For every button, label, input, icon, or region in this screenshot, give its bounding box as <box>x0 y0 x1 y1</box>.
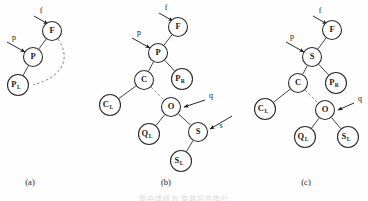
node-label: O <box>168 101 175 111</box>
node-label: S <box>310 51 315 61</box>
pointer-label-f: f <box>165 3 168 12</box>
panel-b: fpqsFPPRCCLOQLSSL(b) <box>100 3 233 187</box>
tree-node-b-S: S <box>189 123 208 142</box>
pointer-label-q: q <box>209 91 213 100</box>
tree-edge <box>187 141 193 152</box>
node-label: F <box>49 25 54 35</box>
tree-edge <box>149 62 154 71</box>
tree-edge <box>39 39 46 49</box>
node-label: S <box>196 126 201 136</box>
pointer-arrow-q <box>338 103 354 110</box>
panel-caption-c: (c) <box>301 177 311 187</box>
tree-edge <box>318 38 326 49</box>
tree-node-b-SL: SL <box>171 151 192 172</box>
node-label: F <box>329 24 334 34</box>
tree-node-b-C: C <box>135 71 154 90</box>
tree-diagram-svg: fpFPPL(a)fpqsFPPRCCLOQLSSL(b)fpqFSCPRCLO… <box>0 0 368 201</box>
tree-edge <box>319 64 329 75</box>
tree-node-a-P: P <box>24 48 43 67</box>
faint-footer-text: 图中虚线为 旋转后的指针 <box>0 195 368 201</box>
tree-node-c-O: O <box>316 101 335 120</box>
tree-node-b-F: F <box>169 18 188 37</box>
node-label: F <box>175 21 180 31</box>
tree-edge <box>178 114 190 125</box>
tree-node-c-QL: QL <box>295 127 316 148</box>
tree-edge <box>312 118 320 128</box>
node-label: P <box>155 47 160 57</box>
pointer-label-q: q <box>358 94 362 103</box>
panel-a: fpFPPL(a) <box>7 6 64 187</box>
tree-edge <box>274 89 291 102</box>
pointer-arrow-p <box>7 42 25 52</box>
tree-edge <box>119 86 136 99</box>
tree-edge-dashed <box>305 90 318 103</box>
tree-edge <box>164 35 172 45</box>
figure-container: fpFPPL(a)fpqsFPPRCCLOQLSSL(b)fpqFSCPRCLO… <box>0 0 368 201</box>
tree-node-b-P: P <box>149 44 168 63</box>
tree-node-a-F: F <box>43 22 62 41</box>
pointer-label-f: f <box>319 6 322 15</box>
pointer-label-p: p <box>290 32 294 41</box>
pointer-label-p: p <box>137 28 141 37</box>
node-label: P <box>30 51 35 61</box>
tree-edge <box>23 66 28 75</box>
pointer-arrow-p <box>286 42 304 52</box>
pointer-arrow-q <box>184 100 205 107</box>
pointer-arrow-p <box>132 38 150 48</box>
panel-caption-a: (a) <box>25 177 35 187</box>
tree-edge <box>156 115 165 126</box>
pointer-arrow-f <box>34 16 48 24</box>
pointer-label-p: p <box>12 33 16 42</box>
pointer-label-f: f <box>40 6 43 15</box>
tree-node-a-PL: PL <box>8 75 29 96</box>
node-label: C <box>295 77 301 87</box>
panel-caption-b: (b) <box>161 177 171 187</box>
tree-node-b-O: O <box>162 98 181 117</box>
tree-node-c-PR: PR <box>326 73 347 94</box>
tree-edge <box>303 66 308 74</box>
tree-node-b-CL: CL <box>100 95 121 116</box>
node-label: C <box>141 74 147 84</box>
pointer-label-s: s <box>219 121 222 130</box>
tree-node-c-C: C <box>289 74 308 93</box>
pointer-arrow-f <box>313 16 327 24</box>
tree-node-c-F: F <box>323 21 342 40</box>
node-label: O <box>322 104 329 114</box>
pointer-arrow-f <box>159 13 173 21</box>
tree-node-c-S: S <box>303 48 322 67</box>
tree-node-b-PR: PR <box>172 69 193 90</box>
tree-node-c-CL: CL <box>255 99 276 120</box>
panel-c: fpqFSCPRCLOQLSL(c) <box>255 6 363 187</box>
tree-edge <box>331 118 340 129</box>
tree-node-b-QL: QL <box>139 124 160 145</box>
tree-edge <box>165 60 175 71</box>
tree-edge-dashed <box>151 87 164 100</box>
tree-node-c-SL: SL <box>338 127 359 148</box>
diagram-layers: fpFPPL(a)fpqsFPPRCCLOQLSSL(b)fpqFSCPRCLO… <box>7 3 362 187</box>
